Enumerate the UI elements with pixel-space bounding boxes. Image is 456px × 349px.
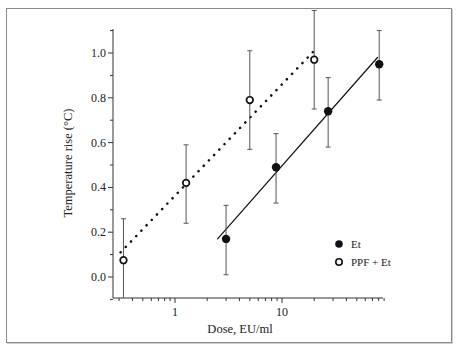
legend-filled-circle-icon xyxy=(335,240,343,248)
legend: Et PPF + Et xyxy=(335,238,391,268)
y-tick-label: 0.6 xyxy=(91,136,106,150)
legend-label-et: Et xyxy=(351,238,361,250)
axes: 0.00.20.40.60.81.0110 xyxy=(91,29,384,319)
y-tick-label: 0.4 xyxy=(91,180,106,194)
y-tick-label: 1.0 xyxy=(91,46,106,60)
x-tick-label: 1 xyxy=(172,305,178,319)
data-point-filled xyxy=(222,235,230,243)
x-tick-label: 10 xyxy=(276,305,288,319)
data-point-open xyxy=(120,257,127,264)
data-point-open xyxy=(183,180,190,187)
y-tick-label: 0.8 xyxy=(91,91,106,105)
fit-line-dotted xyxy=(121,51,315,253)
series-ppf-et xyxy=(120,10,317,298)
legend-label-ppf-et: PPF + Et xyxy=(351,256,391,268)
data-point-filled xyxy=(324,107,332,115)
data-point-filled xyxy=(375,60,383,68)
y-axis-label: Temperature rise (°C) xyxy=(61,109,75,218)
chart-plot: 0.00.20.40.60.81.0110 Temperature rise (… xyxy=(0,0,456,349)
legend-open-circle-icon xyxy=(336,259,342,265)
y-tick-label: 0.2 xyxy=(91,225,106,239)
data-point-filled xyxy=(272,163,280,171)
x-axis-label: Dose, EU/ml xyxy=(207,322,273,336)
data-point-open xyxy=(311,56,318,63)
y-tick-label: 0.0 xyxy=(91,270,106,284)
data-point-open xyxy=(246,97,253,104)
data-series xyxy=(120,10,383,298)
fit-line-solid xyxy=(218,57,378,238)
